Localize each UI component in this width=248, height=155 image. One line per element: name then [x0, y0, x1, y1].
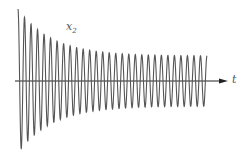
- axis-arrow-icon: [219, 79, 228, 84]
- x2-waveform: [18, 9, 207, 149]
- t-axis-label: t: [232, 74, 236, 85]
- x2-label: x2: [66, 21, 77, 32]
- oscillation-diagram: [0, 0, 248, 155]
